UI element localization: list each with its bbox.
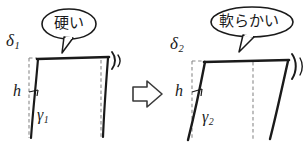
left-frame [31,57,109,138]
left-vibration-mark [112,52,120,69]
left-angle-tick-horizontal [29,90,38,92]
left-gamma-label: γ1 [37,107,49,125]
left-frame-column-left [31,59,38,138]
transition-arrow-icon [133,81,162,107]
left-angle-marker [29,90,38,96]
right-bubble-tail-joint [245,36,254,37]
right-callout-text: 軟らかい [219,14,279,29]
right-delta-subscript: 2 [178,43,184,54]
right-vibration-mark [292,54,302,79]
right-angle-marker [192,89,202,96]
left-angle-tick-vertical [37,90,38,96]
left-frame-column-right [103,58,108,137]
left-undeformed-guide [29,58,101,138]
right-delta-symbol: δ [170,34,178,53]
left-delta-label: δ1 [6,32,20,51]
right-angle-tick-vertical [201,89,202,96]
left-callout-text: 硬い [54,16,84,31]
left-delta-symbol: δ [6,31,14,50]
right-frame [188,60,289,140]
left-frame-beam [37,57,109,59]
right-undeformed-guide [192,61,253,140]
right-frame-column-right [270,61,288,139]
left-height-label: h [13,83,21,99]
left-delta-subscript: 1 [14,40,20,51]
right-frame-column-left [188,62,205,140]
left-bubble-tail [62,37,73,53]
left-gamma-subscript: 1 [43,114,48,125]
right-height-label: h [175,83,183,99]
right-gamma-label: γ2 [202,109,214,127]
figure-canvas: 硬い δ1 h γ1 軟らかい δ2 h γ2 [0,0,308,153]
right-delta-label: δ2 [170,35,184,54]
right-frame-beam [204,60,289,62]
right-gamma-subscript: 2 [208,116,213,127]
right-bubble-tail [239,35,254,52]
